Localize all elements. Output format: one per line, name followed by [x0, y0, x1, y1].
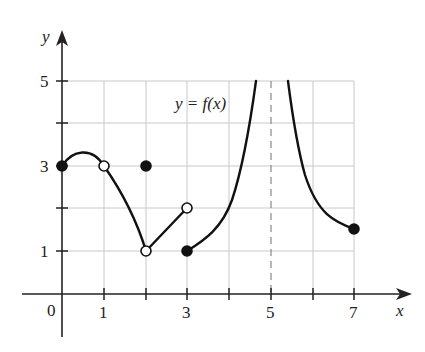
curve-piece-2: [146, 208, 187, 251]
function-graph: y x 0 1 3 5 7 5 3 1 y = f(x): [0, 0, 425, 352]
open-point: [99, 161, 109, 171]
open-point: [182, 203, 192, 213]
x-axis-label: x: [395, 301, 404, 320]
y-axis-label: y: [40, 27, 50, 46]
curve-piece-4: [288, 81, 354, 229]
x-tick-label-3: 3: [182, 303, 191, 322]
closed-point: [57, 161, 67, 171]
axes: [22, 40, 405, 337]
x-tick-label-7: 7: [349, 303, 358, 322]
origin-label: 0: [47, 301, 56, 320]
y-tick-label-5: 5: [40, 72, 49, 91]
closed-point: [349, 224, 359, 234]
y-tick-label-3: 3: [40, 157, 49, 176]
x-tick-label-5: 5: [266, 303, 275, 322]
closed-point: [182, 246, 192, 256]
y-tick-label-1: 1: [40, 242, 49, 261]
ticks: [56, 81, 354, 300]
function-label: y = f(x): [173, 94, 226, 113]
x-tick-label-1: 1: [99, 303, 108, 322]
open-point: [141, 246, 151, 256]
closed-point: [141, 161, 151, 171]
